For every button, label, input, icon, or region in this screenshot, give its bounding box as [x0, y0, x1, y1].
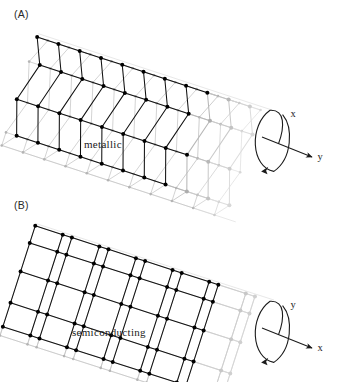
- rotation-axis-label: y: [290, 299, 296, 310]
- rotation-arrowhead: [261, 358, 268, 365]
- nanotube-figure: (A) metallic xy (B) semiconducting yx: [0, 0, 338, 382]
- panel-b-axes: yx: [0, 191, 338, 382]
- rotation-arrowhead: [261, 167, 268, 174]
- panel-a-axes: xy: [0, 0, 338, 191]
- rotation-axis-label: x: [290, 108, 296, 119]
- arrow-axis-label: y: [317, 151, 323, 162]
- arrow-axis-label: x: [317, 342, 323, 353]
- panel-b: (B) semiconducting yx: [0, 191, 338, 382]
- panel-a: (A) metallic xy: [0, 0, 338, 191]
